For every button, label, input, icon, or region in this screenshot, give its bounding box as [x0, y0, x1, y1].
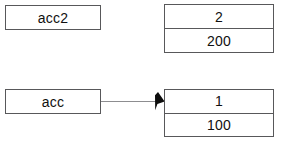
variable-box-acc[interactable]: acc [5, 89, 101, 114]
object-field-id-obj2: 2 [165, 5, 273, 29]
diagram-canvas: acc2 2 200 acc 1 100 [0, 0, 284, 143]
variable-label-acc2: acc2 [38, 11, 68, 25]
object-box-obj1[interactable]: 1 100 [164, 89, 274, 137]
variable-box-acc2[interactable]: acc2 [5, 5, 101, 30]
object-box-obj2[interactable]: 2 200 [164, 4, 274, 53]
object-field-balance-obj1: 100 [165, 114, 273, 137]
connector-acc-to-obj1 [101, 101, 160, 102]
object-field-balance-obj2: 200 [165, 29, 273, 52]
object-field-id-obj1: 1 [165, 90, 273, 114]
variable-label-acc: acc [42, 95, 64, 109]
